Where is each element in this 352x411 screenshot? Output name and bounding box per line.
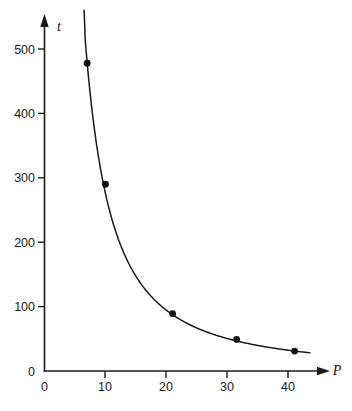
- data-point-group: [84, 60, 298, 355]
- y-tick-label-0: 0: [28, 365, 35, 379]
- x-tick-label-40: 40: [281, 380, 295, 394]
- y-tick-label-400: 400: [14, 107, 35, 121]
- x-tick-label-30: 30: [220, 380, 234, 394]
- x-axis-title: P: [332, 363, 342, 378]
- data-point: [233, 336, 240, 343]
- y-tick-label-500: 500: [14, 43, 35, 57]
- x-tick-label-0: 0: [41, 380, 48, 394]
- x-axis-ticks: [105, 371, 288, 378]
- x-axis-arrowhead: [317, 367, 330, 375]
- data-point: [102, 181, 109, 188]
- data-point: [291, 348, 298, 355]
- y-axis-title: t: [57, 19, 62, 34]
- y-tick-label-300: 300: [14, 171, 35, 185]
- y-axis-tick-labels: 500 400 300 200 100 0: [14, 43, 35, 379]
- figure-container: 500 400 300 200 100 0 0 10 20 30 40 t P: [0, 0, 352, 411]
- x-axis-tick-labels: 0 10 20 30 40: [41, 380, 295, 394]
- y-tick-label-200: 200: [14, 236, 35, 250]
- x-axis-group: [45, 367, 331, 375]
- y-tick-label-100: 100: [14, 300, 35, 314]
- data-point: [169, 310, 176, 317]
- data-point: [84, 60, 91, 67]
- y-axis-group: [40, 14, 48, 371]
- chart-canvas: 500 400 300 200 100 0 0 10 20 30 40 t P: [0, 0, 352, 411]
- x-tick-label-20: 20: [159, 380, 173, 394]
- x-tick-label-10: 10: [98, 380, 112, 394]
- y-axis-arrowhead: [40, 14, 48, 27]
- data-curve: [84, 10, 310, 352]
